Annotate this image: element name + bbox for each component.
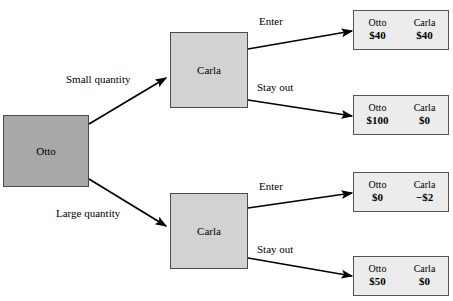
carla-bottom-to-stay-out xyxy=(248,258,352,276)
carla-bottom-to-enter xyxy=(248,193,352,208)
payoff-large-enter: OttoCarla$0−$2 xyxy=(353,172,449,212)
payoff-large-stay-out: OttoCarla$50$0 xyxy=(353,256,449,296)
decision-node-carla-bottom[interactable]: Carla xyxy=(170,193,248,269)
payoff-player-name: Otto xyxy=(354,17,401,29)
payoff-value: $0 xyxy=(401,114,448,127)
edge-label-small-quantity: Small quantity xyxy=(66,73,130,85)
payoff-values: $0−$2 xyxy=(354,191,448,204)
payoff-player-names: OttoCarla xyxy=(354,263,448,275)
payoff-player-names: OttoCarla xyxy=(354,102,448,114)
payoff-player-name: Otto xyxy=(354,179,401,191)
node-label-carla-bottom: Carla xyxy=(197,225,221,237)
payoff-player-name: Carla xyxy=(401,17,448,29)
edge-label-enter-top: Enter xyxy=(259,15,283,27)
payoff-player-name: Otto xyxy=(354,102,401,114)
payoff-value: $40 xyxy=(354,29,401,42)
edge-label-stay-out-bottom: Stay out xyxy=(257,243,293,255)
decision-node-otto[interactable]: Otto xyxy=(3,115,89,187)
payoff-player-name: Otto xyxy=(354,263,401,275)
payoff-value: −$2 xyxy=(401,191,448,204)
payoff-small-stay-out: OttoCarla$100$0 xyxy=(353,95,449,135)
edge-label-stay-out-top: Stay out xyxy=(257,81,293,93)
payoff-player-name: Carla xyxy=(401,263,448,275)
carla-top-to-enter xyxy=(248,31,352,49)
payoff-player-name: Carla xyxy=(401,102,448,114)
payoff-value: $0 xyxy=(354,191,401,204)
payoff-values: $100$0 xyxy=(354,114,448,127)
edge-label-large-quantity: Large quantity xyxy=(56,207,120,219)
carla-top-to-stay-out xyxy=(248,100,352,116)
payoff-value: $100 xyxy=(354,114,401,127)
game-tree-diagram: Otto Carla Carla Small quantity Large qu… xyxy=(0,0,453,301)
node-label-carla-top: Carla xyxy=(197,64,221,76)
edge-label-enter-bottom: Enter xyxy=(259,180,283,192)
payoff-player-names: OttoCarla xyxy=(354,17,448,29)
payoff-player-name: Carla xyxy=(401,179,448,191)
payoff-player-names: OttoCarla xyxy=(354,179,448,191)
payoff-small-enter: OttoCarla$40$40 xyxy=(353,10,449,50)
payoff-values: $40$40 xyxy=(354,29,448,42)
payoff-value: $0 xyxy=(401,275,448,288)
node-label-otto: Otto xyxy=(36,145,56,157)
payoff-values: $50$0 xyxy=(354,275,448,288)
payoff-value: $40 xyxy=(401,29,448,42)
payoff-value: $50 xyxy=(354,275,401,288)
decision-node-carla-top[interactable]: Carla xyxy=(170,32,248,108)
